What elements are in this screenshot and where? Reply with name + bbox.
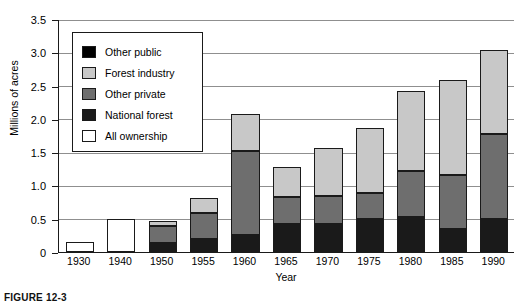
bar-segment[interactable] — [314, 148, 342, 197]
bar-segment[interactable] — [190, 238, 218, 253]
bar-group[interactable] — [356, 128, 384, 252]
y-tick-label: 0.5 — [31, 214, 46, 225]
bar-segment[interactable] — [439, 80, 467, 176]
legend-item[interactable]: Other private — [82, 83, 202, 104]
y-axis-title: Millions of acres — [8, 33, 20, 163]
bar-group[interactable] — [273, 167, 301, 252]
y-tick-label: 2.0 — [31, 114, 46, 125]
bar-segment[interactable] — [356, 193, 384, 220]
bar-segment[interactable] — [480, 50, 508, 135]
x-tick-label: 1940 — [108, 255, 131, 267]
bar-group[interactable] — [314, 148, 342, 253]
bar-segment[interactable] — [231, 114, 259, 151]
bar-segment[interactable] — [273, 197, 301, 224]
bar-segment[interactable] — [356, 128, 384, 193]
bar-group[interactable] — [439, 80, 467, 252]
bar-segment[interactable] — [314, 223, 342, 253]
y-tick-label: 1.0 — [31, 181, 46, 192]
x-tick-label: 1980 — [399, 255, 422, 267]
legend-item[interactable]: Other public — [82, 41, 202, 62]
y-tick-label: 0 — [40, 248, 46, 259]
x-tick-label: 1960 — [233, 255, 256, 267]
x-tick-label: 1930 — [67, 255, 90, 267]
bar-segment[interactable] — [231, 151, 259, 236]
bar-segment[interactable] — [149, 226, 177, 243]
bar-group[interactable] — [480, 50, 508, 252]
chart-legend: Other publicForest industryOther private… — [72, 32, 203, 152]
bar-segment[interactable] — [314, 196, 342, 224]
bar-segment[interactable] — [190, 198, 218, 213]
bar-segment[interactable] — [107, 219, 135, 252]
legend-label: All ownership — [105, 130, 167, 142]
bar-segment[interactable] — [397, 171, 425, 218]
x-tick-label: 1985 — [440, 255, 463, 267]
bar-segment[interactable] — [356, 218, 384, 253]
legend-label: National forest — [105, 109, 173, 121]
figure-caption: FIGURE 12-3 — [4, 292, 67, 303]
legend-item[interactable]: All ownership — [82, 125, 202, 146]
legend-swatch — [82, 88, 96, 100]
x-tick-label: 1955 — [191, 255, 214, 267]
bar-segment[interactable] — [273, 223, 301, 253]
bar-segment[interactable] — [149, 242, 177, 253]
legend-label: Other private — [105, 88, 166, 100]
x-tick-label: 1965 — [274, 255, 297, 267]
x-tick-label: 1975 — [357, 255, 380, 267]
bar-group[interactable] — [149, 221, 177, 252]
x-axis-tick-labels: 1930194019501955196019651970197519801985… — [58, 255, 514, 271]
figure-container: Millions of acres 00.51.01.52.02.53.03.5… — [0, 0, 522, 303]
bar-segment[interactable] — [480, 134, 508, 219]
bar-group[interactable] — [107, 219, 135, 252]
x-tick-label: 1990 — [482, 255, 505, 267]
y-tick-label: 3.5 — [31, 15, 46, 26]
bar-segment[interactable] — [231, 234, 259, 253]
legend-item[interactable]: National forest — [82, 104, 202, 125]
bar-group[interactable] — [66, 242, 94, 252]
legend-label: Forest industry — [105, 67, 174, 79]
bar-segment[interactable] — [439, 175, 467, 228]
bar-group[interactable] — [231, 114, 259, 252]
bar-segment[interactable] — [273, 167, 301, 197]
legend-item[interactable]: Forest industry — [82, 62, 202, 83]
y-tick-label: 2.5 — [31, 81, 46, 92]
legend-swatch — [82, 109, 96, 121]
bar-segment[interactable] — [397, 216, 425, 253]
y-tick-mark — [52, 253, 58, 254]
legend-label: Other public — [105, 46, 162, 58]
y-axis: Millions of acres 00.51.01.52.02.53.03.5 — [0, 0, 56, 273]
bar-segment[interactable] — [480, 218, 508, 253]
bar-segment[interactable] — [439, 228, 467, 253]
bar-group[interactable] — [190, 198, 218, 252]
legend-swatch — [82, 46, 96, 58]
bar-segment[interactable] — [397, 91, 425, 171]
x-tick-label: 1970 — [316, 255, 339, 267]
x-tick-label: 1950 — [150, 255, 173, 267]
y-tick-label: 3.0 — [31, 48, 46, 59]
legend-swatch — [82, 67, 96, 79]
legend-swatch — [82, 130, 96, 142]
bar-segment[interactable] — [66, 242, 94, 252]
y-tick-label: 1.5 — [31, 148, 46, 159]
bar-segment[interactable] — [190, 213, 218, 240]
x-axis-title: Year — [58, 271, 514, 283]
bar-group[interactable] — [397, 91, 425, 252]
